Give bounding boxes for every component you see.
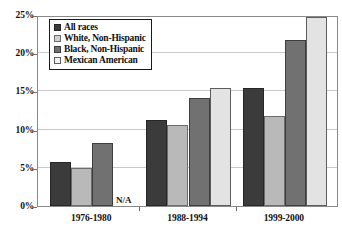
bar-chart: 0%5%10%15%20%25% N/A 1976-19801988-19941… — [0, 0, 342, 237]
bar — [210, 88, 231, 206]
legend-swatch-icon — [54, 46, 61, 53]
x-axis-tick-mark — [236, 207, 237, 211]
legend-item: Mexican American — [54, 55, 146, 66]
legend-swatch-icon — [54, 57, 61, 64]
bar — [71, 168, 92, 206]
y-axis-tick-mark — [33, 207, 37, 208]
legend-item-label: Black, Non-Hispanic — [64, 45, 144, 55]
x-axis-category-label: 1976-1980 — [51, 213, 131, 223]
legend-item-label: Mexican American — [64, 56, 138, 66]
y-axis-tick-label: 15% — [4, 87, 34, 97]
missing-data-label: N/A — [113, 196, 134, 205]
legend-item: Black, Non-Hispanic — [54, 44, 146, 55]
y-axis-tick-label: 20% — [4, 49, 34, 59]
y-axis-tick-label: 10% — [4, 126, 34, 136]
bar — [264, 116, 285, 206]
bar — [167, 125, 188, 206]
y-axis-tick-label: 25% — [4, 11, 34, 21]
y-axis-tick-label: 0% — [4, 202, 34, 212]
x-axis-tick-mark — [139, 207, 140, 211]
y-axis-tick-label: 5% — [4, 164, 34, 174]
bar — [92, 143, 113, 206]
legend-item-label: All races — [64, 23, 98, 33]
legend-item: All races — [54, 22, 146, 33]
legend-item-label: White, Non-Hispanic — [64, 34, 146, 44]
x-axis-category-label: 1999-2000 — [244, 213, 324, 223]
bar — [189, 98, 210, 206]
legend-swatch-icon — [54, 24, 61, 31]
bar — [50, 162, 71, 206]
bar — [285, 40, 306, 206]
bar — [243, 88, 264, 206]
bar — [146, 120, 167, 206]
legend-swatch-icon — [54, 35, 61, 42]
legend: All racesWhite, Non-HispanicBlack, Non-H… — [49, 19, 152, 70]
bar — [306, 17, 327, 206]
x-axis-category-label: 1988-1994 — [148, 213, 228, 223]
legend-item: White, Non-Hispanic — [54, 33, 146, 44]
